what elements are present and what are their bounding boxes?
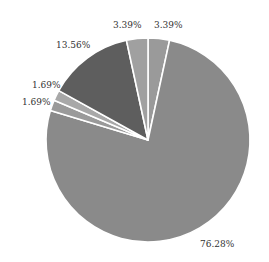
- slice-label-76-28: 76.28%: [200, 239, 235, 249]
- slice-label-1-69-lower: 1.69%: [22, 97, 51, 107]
- slice-label-13-56: 13.56%: [56, 40, 91, 50]
- slice-label-3-39-left: 3.39%: [113, 20, 142, 30]
- slice-label-3-39-right: 3.39%: [154, 20, 183, 30]
- pie-chart: 3.39% 3.39% 13.56% 1.69% 1.69% 76.28%: [0, 0, 269, 262]
- slice-label-1-69-upper: 1.69%: [32, 80, 61, 90]
- pie-slices: [46, 38, 250, 242]
